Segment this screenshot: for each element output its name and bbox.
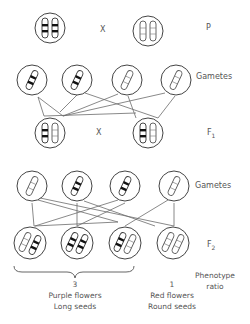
- f1-individual-2: [133, 118, 163, 148]
- gamete-1-1: [17, 65, 47, 95]
- generation-label-f2: F2: [207, 240, 215, 251]
- gamete-1-2: [62, 65, 92, 95]
- p-parent-1: [35, 13, 65, 43]
- generation-label-p: P: [206, 23, 211, 32]
- f1-subscript: 1: [212, 132, 216, 139]
- gamete-2-2: [62, 171, 92, 201]
- gamete-to-f1-lines: [38, 92, 175, 118]
- gamete-1-3: [112, 65, 142, 95]
- phenotype-recessive: 1 Red flowers Round seeds: [136, 279, 208, 312]
- phenotype-dominant: 3 Purple flowers Long seeds: [36, 279, 114, 312]
- phenotype-dominant-ratio: 3: [36, 279, 114, 290]
- phenotype-recessive-line1: Red flowers: [136, 290, 208, 301]
- cross-symbol-p: X: [100, 25, 105, 34]
- phenotype-recessive-line2: Round seeds: [136, 301, 208, 312]
- phenotype-dominant-line2: Long seeds: [36, 301, 114, 312]
- phenotype-recessive-ratio: 1: [136, 279, 208, 290]
- f2-individual-2: [61, 227, 93, 259]
- phenotype-dominant-line1: Purple flowers: [36, 290, 114, 301]
- gametes-label-2: Gametes: [195, 181, 231, 190]
- gamete-2-4: [159, 171, 189, 201]
- f1-individual-1: [35, 118, 65, 148]
- gamete-to-f2-lines: [32, 198, 174, 226]
- f2-subscript: 2: [212, 244, 216, 251]
- f2-individual-4: [157, 227, 189, 259]
- generation-label-f1: F1: [207, 128, 215, 139]
- f2-individual-3: [109, 227, 141, 259]
- gametes-label-1: Gametes: [196, 72, 232, 81]
- gamete-2-3: [110, 171, 140, 201]
- f2-individual-1: [14, 227, 46, 259]
- gamete-1-4: [161, 65, 191, 95]
- cross-symbol-f1: X: [96, 128, 101, 137]
- p-parent-2: [133, 16, 163, 46]
- gamete-2-1: [17, 171, 47, 201]
- phenotype-brace: [14, 266, 134, 278]
